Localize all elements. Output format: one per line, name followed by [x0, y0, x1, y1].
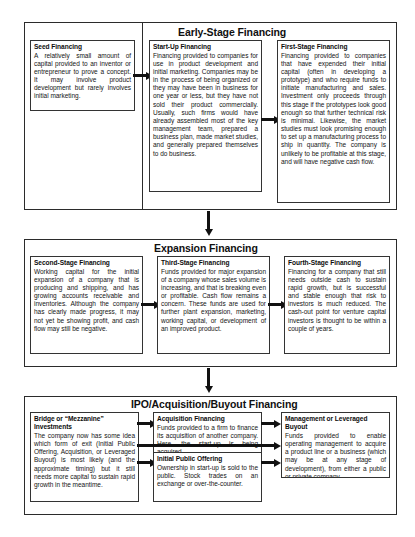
arrow-ipo-to-buyout	[261, 461, 275, 464]
card-third-stage-financing: Third-Stage Financing Funds provided for…	[157, 256, 270, 354]
card-title-initial-public-offering: Initial Public Offering	[157, 455, 258, 463]
card-title-first-stage-financing: First-Stage Financing	[281, 43, 386, 51]
stage-title-ipo: IPO/Acquisition/Buyout Financing	[131, 398, 298, 410]
card-title-management-leveraged-buyout: Management or Leveraged Buyout	[285, 415, 386, 431]
card-acquisition-financing: Acquisition Financing Funds provided to …	[153, 412, 262, 454]
card-title-second-stage-financing: Second-Stage Financing	[34, 259, 139, 267]
card-second-stage-financing: Second-Stage Financing Working capital f…	[30, 256, 143, 354]
card-title-third-stage-financing: Third-Stage Financing	[161, 259, 266, 267]
card-management-leveraged-buyout: Management or Leveraged Buyout Funds pro…	[281, 412, 390, 478]
card-body-third-stage-financing: Funds provided for major expansion of a …	[161, 268, 266, 333]
arrow-acquisition-to-buyout	[261, 422, 275, 425]
card-body-seed-financing: A relatively small amount of capital pro…	[34, 52, 131, 101]
arrow-bridge-to-acquisition	[137, 422, 151, 425]
card-body-first-stage-financing: Financing provided to companies that hav…	[281, 52, 386, 166]
diagram-canvas: Early-Stage Financing Seed Financing A r…	[0, 0, 415, 537]
arrow-early-to-expansion	[207, 211, 210, 230]
card-title-fourth-stage-financing: Fourth-Stage Financing	[288, 259, 386, 267]
card-body-second-stage-financing: Working capital for the initial expansio…	[34, 268, 139, 333]
card-body-start-up-financing: Financing provided to companies for use …	[153, 52, 258, 158]
card-title-start-up-financing: Start-Up Financing	[153, 43, 258, 51]
card-title-bridge-mezzanine: Bridge or “Mezzanine” Investments	[34, 415, 135, 431]
arrow-bridge-long-to-buyout	[137, 444, 275, 447]
card-body-acquisition-financing: Funds provided to a firm to finance its …	[157, 424, 258, 454]
card-body-fourth-stage-financing: Financing for a company that still needs…	[288, 268, 386, 333]
early-stage-divider	[142, 22, 143, 210]
card-bridge-mezzanine-investments: Bridge or “Mezzanine” Investments The co…	[30, 412, 139, 502]
card-body-management-leveraged-buyout: Funds provided to enable operating manag…	[285, 432, 386, 478]
arrow-second-to-third	[141, 303, 155, 306]
card-initial-public-offering: Initial Public Offering Ownership in sta…	[153, 452, 262, 502]
card-body-initial-public-offering: Ownership in start-up is sold to the pub…	[157, 464, 258, 488]
arrow-bridge-to-ipo-card	[137, 461, 151, 464]
stage-title-early-stage: Early-Stage Financing	[178, 26, 286, 38]
card-title-acquisition-financing: Acquisition Financing	[157, 415, 258, 423]
card-body-bridge-mezzanine: The company now has some idea which form…	[34, 432, 135, 489]
card-start-up-financing: Start-Up Financing Financing provided to…	[149, 40, 262, 192]
card-seed-financing: Seed Financing A relatively small amount…	[30, 40, 135, 111]
arrow-expansion-to-ipo	[207, 368, 210, 387]
card-fourth-stage-financing: Fourth-Stage Financing Financing for a c…	[284, 256, 390, 354]
stage-title-expansion: Expansion Financing	[154, 242, 258, 254]
arrow-startup-to-firststage	[261, 118, 275, 121]
card-title-seed-financing: Seed Financing	[34, 43, 131, 51]
card-first-stage-financing: First-Stage Financing Financing provided…	[277, 40, 390, 203]
arrow-third-to-fourth	[268, 303, 282, 306]
arrow-seed-to-startup	[133, 74, 147, 77]
